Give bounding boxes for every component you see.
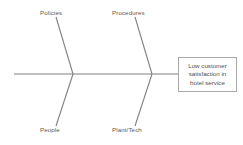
effect-text-line-1: Low customer <box>188 62 227 69</box>
fishbone-diagram-canvas: Policies Procedures People Plant/Tech Lo… <box>0 0 243 145</box>
bone-line-people <box>56 74 73 126</box>
effect-text: Low customer satisfaction in hotel servi… <box>186 62 229 88</box>
bone-label-procedures: Procedures <box>112 9 145 16</box>
bone-label-policies: Policies <box>40 9 62 16</box>
bone-line-plant-tech <box>135 74 152 126</box>
bone-label-plant-tech: Plant/Tech <box>112 126 142 133</box>
bone-line-policies <box>56 17 73 74</box>
effect-text-line-2: satisfaction in <box>189 70 227 77</box>
effect-text-line-3: hotel service <box>190 79 225 86</box>
bone-label-people: People <box>40 126 60 133</box>
bone-line-procedures <box>135 17 152 74</box>
effect-box: Low customer satisfaction in hotel servi… <box>178 57 237 92</box>
